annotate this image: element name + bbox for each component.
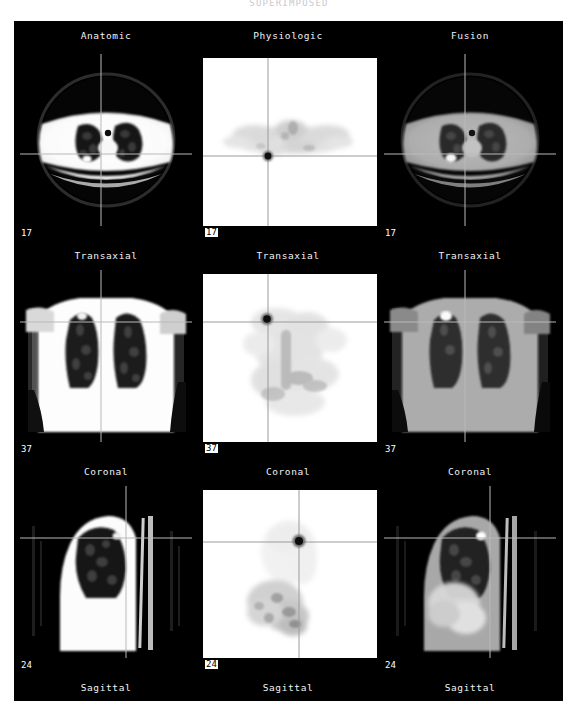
fusion-sagittal-image[interactable]: [384, 486, 556, 658]
column-header-fusion: Fusion: [379, 30, 561, 41]
cell-fusion-transaxial[interactable]: 17 Transaxial: [379, 52, 561, 268]
cell-anatomic-coronal[interactable]: 37 Coronal: [15, 268, 197, 484]
image-row-transaxial: 17 Transaxial: [15, 52, 562, 268]
column-header-physiologic: Physiologic: [197, 30, 379, 41]
page-title: SUPERIMPOSED: [0, 0, 578, 8]
slice-number: 37: [204, 443, 219, 454]
fusion-transaxial-image[interactable]: [384, 54, 556, 226]
plane-label-coronal: Coronal: [15, 466, 197, 477]
fusion-coronal-image[interactable]: [384, 270, 556, 442]
cell-anatomic-sagittal[interactable]: 24 Sagittal: [15, 484, 197, 700]
image-row-coronal: 37 Coronal: [15, 268, 562, 484]
plane-label-transaxial: Transaxial: [15, 250, 197, 261]
slice-number: 17: [384, 228, 397, 238]
slice-number: 17: [204, 227, 219, 238]
plane-label-coronal: Coronal: [379, 466, 561, 477]
plane-label-sagittal: Sagittal: [379, 682, 561, 693]
cell-fusion-sagittal[interactable]: 24 Sagittal: [379, 484, 561, 700]
slice-number: 17: [20, 228, 33, 238]
pet-sagittal-image[interactable]: [203, 490, 377, 658]
viewer-panel: Anatomic Physiologic Fusion: [15, 22, 562, 700]
plane-label-sagittal: Sagittal: [197, 682, 379, 693]
ct-transaxial-image[interactable]: [20, 54, 192, 226]
ct-sagittal-image[interactable]: [20, 486, 192, 658]
slice-number: 37: [384, 444, 397, 454]
plane-label-sagittal: Sagittal: [15, 682, 197, 693]
column-header-row: Anatomic Physiologic Fusion: [15, 22, 562, 52]
cell-anatomic-transaxial[interactable]: 17 Transaxial: [15, 52, 197, 268]
ct-coronal-image[interactable]: [20, 270, 192, 442]
slice-number: 24: [384, 660, 397, 670]
image-row-sagittal: 24 Sagittal: [15, 484, 562, 700]
pet-ct-fusion-viewer: SUPERIMPOSED Anatomic Physiologic Fusion: [0, 0, 578, 713]
slice-number: 24: [20, 660, 33, 670]
plane-label-coronal: Coronal: [197, 466, 379, 477]
cell-physiologic-coronal[interactable]: 37 Coronal: [197, 268, 379, 484]
pet-transaxial-image[interactable]: [203, 58, 377, 226]
slice-number: 37: [20, 444, 33, 454]
cell-fusion-coronal[interactable]: 37 Coronal: [379, 268, 561, 484]
slice-number: 24: [204, 659, 219, 670]
cell-physiologic-transaxial[interactable]: 17 Transaxial: [197, 52, 379, 268]
pet-coronal-image[interactable]: [203, 274, 377, 442]
column-header-anatomic: Anatomic: [15, 30, 197, 41]
cell-physiologic-sagittal[interactable]: 24 Sagittal: [197, 484, 379, 700]
plane-label-transaxial: Transaxial: [197, 250, 379, 261]
plane-label-transaxial: Transaxial: [379, 250, 561, 261]
